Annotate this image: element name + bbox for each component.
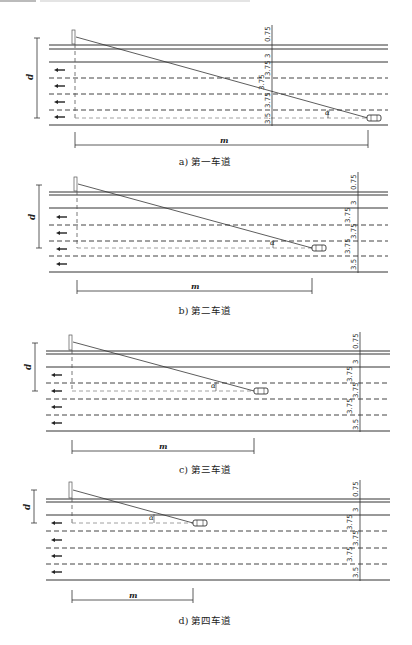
dim-3: 3.75 — [352, 530, 360, 546]
lane-sight-distance-diagram: α d m 0.75 3 3.75 3.75 3.75 3.5 — [0, 0, 412, 645]
angle-label: α — [149, 514, 154, 522]
left-arrow-icon — [51, 421, 62, 425]
dim-2: 3.75 — [346, 366, 354, 382]
caption-d: d) 第四车道 — [179, 613, 232, 627]
dim-0: 0.75 — [352, 481, 360, 497]
caption-b: b) 第二车道 — [179, 303, 232, 317]
car-icon — [193, 520, 207, 526]
angle-label: α — [270, 239, 275, 247]
dim-3: 3.75 — [352, 382, 360, 398]
left-arrow-icon — [51, 538, 62, 542]
dim-0: 0.75 — [350, 174, 358, 190]
panel-a: α d m 0.75 3 3.75 3.75 3.75 3.5 — [25, 25, 388, 148]
dim-0: 0.75 — [352, 333, 360, 349]
left-arrow-icon — [54, 84, 65, 88]
m-label: m — [159, 441, 167, 451]
d-label: d — [22, 503, 32, 510]
dim-4: 3.75 — [264, 92, 272, 108]
d-label: d — [23, 363, 33, 370]
dim-2: 3.75 — [346, 514, 354, 530]
dim-1: 3 — [264, 54, 272, 58]
dim-1: 3 — [352, 360, 360, 364]
left-arrow-icon — [54, 115, 65, 119]
left-arrow-icon — [51, 389, 62, 393]
caption-a: a) 第一车道 — [179, 154, 231, 168]
dim-0: 0.75 — [264, 26, 272, 42]
dim-5: 3.5 — [350, 259, 358, 270]
left-arrow-icon — [51, 554, 62, 558]
left-arrow-icon — [54, 68, 65, 72]
panel-c: α d m 0.75 3 3.75 3.75 3.75 3.5 — [23, 332, 390, 454]
car-icon — [367, 115, 381, 121]
left-arrow-icon — [51, 405, 62, 409]
left-arrow-icon — [54, 100, 65, 104]
angle-label: α — [325, 109, 330, 117]
dim-2: 3.75 — [264, 60, 272, 76]
dim-5: 3.5 — [352, 419, 360, 430]
left-arrow-icon — [56, 247, 67, 251]
d-label: d — [25, 73, 35, 80]
dim-1: 3 — [352, 508, 360, 512]
left-arrow-icon — [51, 570, 62, 574]
dim-4: 3.75 — [344, 238, 352, 254]
dim-3: 3.75 — [350, 223, 358, 239]
sign-post-icon — [74, 177, 77, 248]
car-icon — [312, 245, 326, 251]
caption-c: c) 第三车道 — [179, 462, 231, 476]
left-arrow-icon — [56, 231, 67, 235]
dim-1: 3 — [350, 201, 358, 205]
m-label: m — [129, 590, 137, 600]
dim-3: 3.75 — [258, 74, 266, 90]
left-arrow-icon — [51, 373, 62, 377]
left-arrow-icon — [56, 262, 67, 266]
car-icon — [254, 388, 268, 394]
panel-d: α d m 0.75 3 3.75 3.75 3.75 3.5 — [22, 480, 390, 603]
left-arrow-icon — [51, 521, 62, 525]
dim-5: 3.5 — [264, 113, 272, 124]
m-label: m — [220, 135, 228, 145]
angle-label: α — [211, 382, 216, 390]
left-arrow-icon — [56, 215, 67, 219]
dim-5: 3.5 — [352, 567, 360, 578]
dim-4: 3.75 — [346, 398, 354, 414]
d-label: d — [27, 213, 37, 220]
dim-2: 3.75 — [344, 207, 352, 223]
dim-4: 3.75 — [346, 546, 354, 562]
sign-post-icon — [72, 30, 75, 118]
m-label: m — [191, 281, 199, 291]
panel-b: α d m 0.75 3 3.75 3.75 3.75 3.5 — [27, 172, 388, 294]
